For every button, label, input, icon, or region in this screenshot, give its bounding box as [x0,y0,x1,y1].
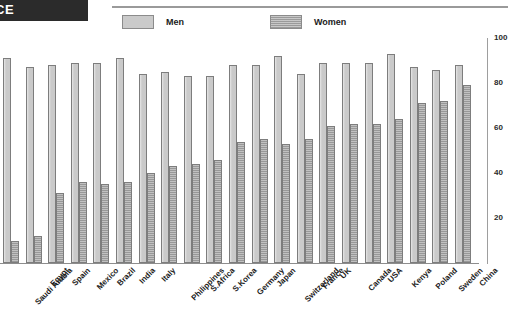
bar-women [124,182,132,263]
bar-group [274,41,292,263]
bar-group [365,41,383,263]
bar-men [365,63,373,263]
legend-swatch-men-icon [122,15,154,29]
bar-group [387,41,405,263]
bar-women [192,164,200,263]
bar-women [282,144,290,263]
y-axis-line [487,38,488,264]
header-divider [112,6,508,8]
bar-men [319,63,327,263]
bars-container [0,36,479,268]
header-banner: CE [0,0,88,21]
bar-group [116,41,134,263]
legend-swatch-women-icon [270,15,302,29]
bar-men [161,72,169,263]
banner-title: CE [0,2,14,18]
x-axis-tick-label: India [137,266,157,286]
bar-group [184,41,202,263]
x-axis-tick-labels: Saudi ArabiaEgyptSpainMexicoBrazilIndiaI… [0,266,516,321]
x-axis-tick-label: Spain [71,266,93,288]
bar-men [252,65,260,263]
bar-men [26,67,34,263]
bar-group [252,41,270,263]
bar-group [455,41,473,263]
bar-women [440,101,448,263]
bar-women [169,166,177,263]
bar-women [395,119,403,263]
x-axis-tick-label: Kenya [410,266,433,289]
legend-label-women: Women [314,15,346,29]
bar-men [206,76,214,263]
bar-men [3,58,11,263]
bar-women [147,173,155,263]
bar-chart-plot-area: 20406080100 [0,36,516,268]
bar-men [139,74,147,263]
x-axis-baseline [0,263,479,264]
bar-women [34,236,42,263]
bar-men [297,74,305,263]
y-axis-tick-100: 100 [494,34,507,42]
bar-women [373,124,381,264]
bar-men [455,65,463,263]
bar-women [418,103,426,263]
bar-group [26,41,44,263]
legend-label-men: Men [166,15,184,29]
bar-group [319,41,337,263]
bar-group [3,41,21,263]
bar-men [184,76,192,263]
y-axis-tick-20: 20 [494,214,503,222]
bar-group [161,41,179,263]
bar-men [93,63,101,263]
bar-men [71,63,79,263]
bar-men [229,65,237,263]
bar-group [229,41,247,263]
bar-women [11,241,19,264]
bar-women [237,142,245,264]
bar-women [79,182,87,263]
y-axis-tick-40: 40 [494,169,503,177]
bar-group [139,41,157,263]
bar-group [93,41,111,263]
bar-women [214,160,222,264]
x-axis-tick-label: Brazil [116,266,138,288]
bar-women [305,139,313,263]
x-axis-tick-label: Italy [159,266,177,284]
bar-women [463,85,471,263]
bar-men [342,63,350,263]
bar-men [410,67,418,263]
x-axis-tick-label: Poland [434,266,459,291]
y-axis-tick-60: 60 [494,124,503,132]
bar-men [116,58,124,263]
bar-women [350,124,358,264]
bar-group [297,41,315,263]
bar-group [342,41,360,263]
bar-group [432,41,450,263]
bar-men [274,56,282,263]
y-axis-tick-80: 80 [494,79,503,87]
bar-men [387,54,395,263]
bar-women [56,193,64,263]
bar-women [260,139,268,263]
bar-women [101,184,109,263]
bar-group [48,41,66,263]
bar-women [327,126,335,263]
bar-group [206,41,224,263]
bar-men [432,70,440,264]
bar-group [410,41,428,263]
bar-men [48,65,56,263]
chart-legend: Men Women [112,14,508,34]
bar-group [71,41,89,263]
